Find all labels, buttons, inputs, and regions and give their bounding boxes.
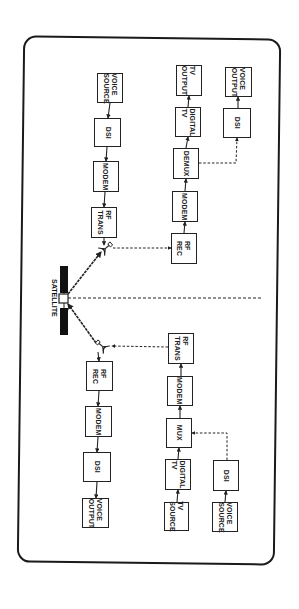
block-r-tv-source: TV SOURCE bbox=[164, 502, 189, 531]
block-r-dsi-2: DSI bbox=[213, 460, 239, 491]
block-label: MODEM bbox=[102, 163, 110, 190]
block-label: RF REC bbox=[92, 368, 107, 383]
block-label: VOICE SOURCE bbox=[218, 502, 233, 533]
block-r-dsi-1: DSI bbox=[223, 108, 251, 138]
block-r-digital-tv-2: DIGITAL TV bbox=[165, 459, 191, 490]
block-label: MUX bbox=[175, 425, 183, 441]
block-l-modem-1: MODEM bbox=[93, 161, 119, 192]
block-label: VOICE SOURCE bbox=[103, 73, 118, 104]
block-r-modem-1: MODEM bbox=[172, 191, 198, 222]
block-r-voice-output: VOICE OUTPUT bbox=[225, 67, 252, 97]
satellite-label: SATELLITE bbox=[49, 279, 59, 305]
block-r-rf-trans: RF TRANS bbox=[168, 333, 194, 364]
block-l-rf-rec: RF REC bbox=[86, 361, 113, 391]
block-label: VOICE OUTPUT bbox=[88, 498, 103, 527]
block-label: DSI bbox=[222, 470, 230, 482]
block-r-rf-rec: RF REC bbox=[171, 233, 197, 264]
block-label: DSI bbox=[104, 127, 112, 139]
block-r-digital-tv-1: DIGITAL TV bbox=[175, 107, 201, 137]
block-l-voice-source: VOICE SOURCE bbox=[97, 73, 123, 103]
antenna-bottom-icon bbox=[93, 338, 109, 354]
connection-lines bbox=[0, 0, 299, 609]
block-label: TV OUTPUT bbox=[182, 66, 197, 95]
block-label: DSI bbox=[233, 117, 241, 129]
block-label: TV SOURCE bbox=[169, 501, 184, 532]
block-l-dsi-1: DSI bbox=[94, 118, 121, 147]
block-r-demux: DEMUX bbox=[173, 148, 199, 179]
block-r-modem-2: MODEM bbox=[167, 376, 193, 406]
block-l-modem-2: MODEM bbox=[85, 406, 112, 437]
block-label: DIGITAL TV bbox=[181, 108, 196, 136]
block-label: RF REC bbox=[177, 241, 192, 256]
block-label: DIGITAL TV bbox=[171, 460, 186, 488]
block-label: MODEM bbox=[181, 193, 189, 220]
block-label: RF TRANS bbox=[174, 336, 189, 361]
block-r-mux: MUX bbox=[166, 418, 192, 448]
block-label: MODEM bbox=[176, 377, 184, 404]
block-label: RF TRANS bbox=[97, 210, 112, 235]
diagram-canvas: SATELLITE VOICE SOURCEDSIMODEMRF TRANSTV… bbox=[0, 0, 299, 609]
block-l-dsi-2: DSI bbox=[83, 452, 111, 482]
block-l-rf-trans: RF TRANS bbox=[91, 207, 117, 238]
block-l-voice-output: VOICE OUTPUT bbox=[82, 498, 109, 528]
block-label: DEMUX bbox=[182, 151, 190, 177]
block-r-tv-output: TV OUTPUT bbox=[176, 65, 202, 96]
block-label: DSI bbox=[93, 461, 101, 473]
block-label: MODEM bbox=[95, 408, 103, 435]
block-label: VOICE OUTPUT bbox=[231, 67, 246, 96]
block-r-voice-source: VOICE SOURCE bbox=[212, 502, 238, 532]
